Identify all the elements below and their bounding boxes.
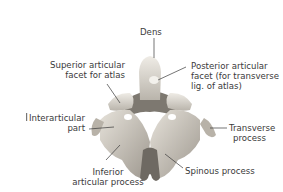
label-posterior-articular-facet: Posterior articular facet (for transvers…	[191, 61, 279, 91]
label-inferior-articular-process: Inferior articular process	[58, 167, 158, 187]
label-dens: Dens	[140, 27, 162, 37]
label-spinous-process: Spinous process	[185, 166, 255, 176]
label-transverse-process: Transverse process	[229, 123, 275, 143]
label-superior-articular-facet: Superior articular facet for atlas	[40, 60, 125, 80]
label-interarticular-part: Interarticular part	[10, 113, 85, 133]
